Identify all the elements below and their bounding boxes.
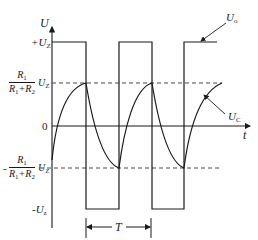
lower-threshold-fraction: R1 R1+R2 bbox=[9, 155, 35, 181]
output-voltage-label: Uo bbox=[226, 12, 237, 25]
lower-threshold-minus: - bbox=[3, 163, 7, 174]
capacitor-voltage-label: UC bbox=[228, 111, 241, 124]
y-axis-label: U bbox=[40, 17, 49, 29]
uo-pointer bbox=[201, 23, 226, 41]
positive-supply-label: +UZ bbox=[31, 37, 51, 50]
period-label: T bbox=[115, 221, 122, 233]
upper-threshold-fraction: R1 R1+R2 bbox=[9, 70, 35, 96]
negative-supply-label: -Uz bbox=[32, 204, 47, 217]
uc-pointer bbox=[204, 95, 225, 114]
upper-threshold-uz: UZ bbox=[38, 78, 50, 90]
lower-threshold-uz: UZ bbox=[38, 163, 50, 175]
origin-label: 0 bbox=[42, 121, 48, 132]
x-axis-label: t bbox=[243, 129, 246, 141]
